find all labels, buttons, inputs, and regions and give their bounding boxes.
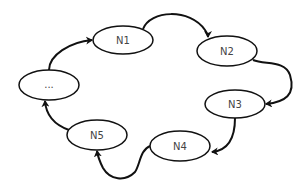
node-label: N5 <box>90 130 104 141</box>
node-label: N2 <box>220 46 234 57</box>
edge-n3-to-n4 <box>212 118 235 152</box>
edge-n1-to-n2 <box>143 14 208 37</box>
node-n5: N5 <box>67 120 127 150</box>
node-n3: N3 <box>205 90 265 118</box>
node-n4: N4 <box>150 131 210 161</box>
node-n2: N2 <box>197 36 257 66</box>
cycle-diagram: ... N1 N2 N3 N4 N5 <box>0 0 307 189</box>
node-n1: N1 <box>93 26 153 54</box>
edge-dots-to-n1 <box>49 40 92 70</box>
edge-n4-to-n5 <box>97 146 150 178</box>
node-dots: ... <box>19 70 79 100</box>
edge-n5-to-dots <box>45 101 69 130</box>
node-label: N4 <box>173 141 187 152</box>
node-label: N1 <box>116 35 130 46</box>
node-label: N3 <box>228 99 242 110</box>
node-label: ... <box>44 79 54 90</box>
